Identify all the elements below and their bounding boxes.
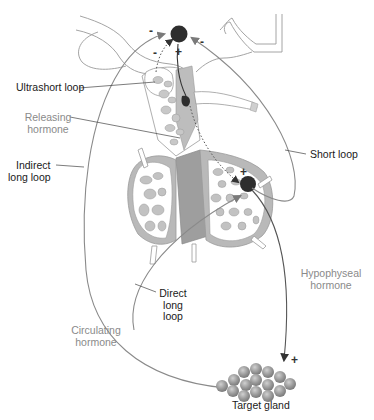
inhibit-sign-ultrashort: - bbox=[153, 47, 157, 59]
stimulate-sign-target: + bbox=[291, 354, 298, 366]
target-gland bbox=[216, 363, 296, 402]
pituitary-stalk bbox=[142, 66, 258, 156]
pituitary-gland bbox=[128, 148, 273, 264]
label-circulating-line2: hormone bbox=[66, 337, 126, 349]
inhibit-sign-indirect: - bbox=[149, 25, 153, 37]
label-releasing-hormone-line1: Releasing bbox=[20, 112, 76, 124]
label-hypophyseal-line1: Hypophyseal bbox=[296, 268, 366, 280]
label-indirect-long-loop: Indirect long loop bbox=[8, 160, 51, 183]
label-circulating-line1: Circulating bbox=[66, 325, 126, 337]
label-indirect-line1: Indirect bbox=[8, 160, 51, 172]
label-releasing-hormone: Releasing hormone bbox=[20, 112, 76, 135]
stimulate-sign-neuron: + bbox=[175, 46, 182, 58]
label-target-gland: Target gland bbox=[232, 400, 290, 412]
hypothalamic-neuron bbox=[171, 26, 188, 43]
label-ultrashort-loop: Ultrashort loop bbox=[16, 82, 84, 94]
label-hypophyseal-line2: hormone bbox=[296, 280, 366, 292]
label-releasing-hormone-line2: hormone bbox=[20, 124, 76, 136]
label-direct-line3: loop bbox=[155, 311, 191, 323]
label-circulating-hormone: Circulating hormone bbox=[66, 325, 126, 348]
label-direct-line1: Direct bbox=[155, 288, 191, 300]
stimulate-sign-pituitary: + bbox=[240, 166, 247, 178]
label-direct-long-loop: Direct long loop bbox=[155, 288, 191, 323]
label-hypophyseal-hormone: Hypophyseal hormone bbox=[296, 268, 366, 291]
label-indirect-line2: long loop bbox=[8, 172, 51, 184]
label-short-loop: Short loop bbox=[310, 149, 358, 161]
inhibit-sign-short: - bbox=[200, 36, 204, 48]
feedback-loop-diagram bbox=[0, 0, 374, 420]
